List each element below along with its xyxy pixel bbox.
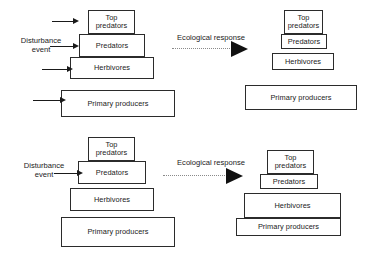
tier-primary-producers: Primary producers <box>236 218 341 236</box>
tier-herbivores: Herbivores <box>272 53 334 70</box>
tier-herbivores: Herbivores <box>70 57 154 79</box>
tier-primary-producers: Primary producers <box>61 217 175 247</box>
panel-bottom: Disturbance event Top predators Predator… <box>0 132 372 264</box>
ecological-response-arrow <box>172 41 250 57</box>
tier-predators: Predators <box>281 34 327 49</box>
tier-predators: Predators <box>78 161 146 184</box>
disturbance-arrow-predators <box>50 43 80 50</box>
tier-predators: Predators <box>79 34 145 57</box>
disturbance-arrow-herbivores <box>42 66 74 73</box>
tier-top-predators: Top predators <box>284 10 323 34</box>
tier-top-predators: Top predators <box>88 137 135 161</box>
disturbance-arrow-predators <box>54 170 84 177</box>
disturbance-arrow-top-predators <box>52 18 80 25</box>
tier-primary-producers: Primary producers <box>61 90 175 117</box>
disturbance-arrow-primary-producers <box>33 97 67 104</box>
tier-top-predators: Top predators <box>88 10 135 34</box>
ecological-response-arrow <box>163 168 247 184</box>
tier-top-predators: Top predators <box>267 150 314 174</box>
ecological-response-label: Ecological response <box>158 158 264 167</box>
tier-primary-producers: Primary producers <box>245 85 357 110</box>
panel-top: Disturbance event Top predators Predator… <box>0 0 372 132</box>
tier-herbivores: Herbivores <box>70 188 154 211</box>
tier-predators: Predators <box>260 174 318 189</box>
ecological-pyramid-diagram: Disturbance event Top predators Predator… <box>0 0 372 264</box>
tier-herbivores: Herbivores <box>244 193 341 218</box>
